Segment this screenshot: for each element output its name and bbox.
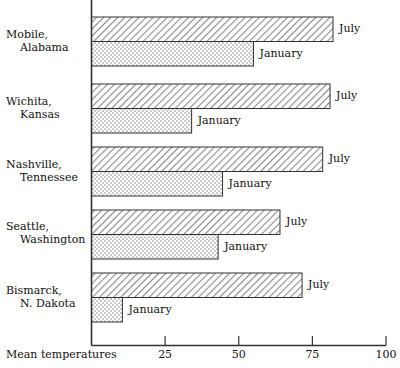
- series-label-nashville-january: January: [229, 177, 272, 190]
- bar-seattle-january: [92, 235, 219, 260]
- bar-bismarck-january: [92, 298, 123, 323]
- x-tick-label-50: 50: [219, 348, 259, 361]
- x-axis-ticks: [165, 336, 386, 346]
- series-label-bismarck-july: July: [308, 278, 329, 291]
- category-label-mobile: Mobile, Alabama: [6, 28, 69, 54]
- chart-canvas: [0, 0, 400, 368]
- category-label-line2: N. Dakota: [6, 297, 76, 310]
- bar-mobile-january: [92, 42, 254, 67]
- series-label-wichita-january: January: [198, 114, 241, 127]
- category-label-line1: Seattle,: [6, 220, 49, 233]
- x-tick-label-100: 100: [366, 348, 400, 361]
- series-label-wichita-july: July: [336, 89, 357, 102]
- x-tick-label-75: 75: [292, 348, 332, 361]
- category-label-line1: Mobile,: [6, 28, 48, 41]
- series-label-seattle-january: January: [224, 240, 267, 253]
- series-label-mobile-july: July: [339, 22, 360, 35]
- bar-seattle-july: [92, 210, 280, 235]
- category-label-nashville: Nashville, Tennessee: [6, 158, 78, 184]
- bars-layer: [92, 17, 333, 322]
- category-label-line1: Nashville,: [6, 158, 62, 171]
- category-label-seattle: Seattle, Washington: [6, 220, 85, 246]
- category-label-line2: Washington: [6, 233, 85, 246]
- bar-wichita-july: [92, 84, 331, 109]
- bar-nashville-july: [92, 147, 323, 172]
- bar-wichita-january: [92, 109, 192, 134]
- category-label-wichita: Wichita, Kansas: [6, 95, 60, 121]
- series-label-mobile-january: January: [259, 47, 302, 60]
- bar-mobile-july: [92, 17, 333, 42]
- x-axis-title: Mean temperatures: [6, 348, 117, 361]
- category-label-line1: Wichita,: [6, 95, 52, 108]
- category-label-line2: Alabama: [6, 41, 69, 54]
- series-label-nashville-july: July: [329, 152, 350, 165]
- category-label-line2: Tennessee: [6, 171, 78, 184]
- category-label-line1: Bismarck,: [6, 284, 62, 297]
- x-tick-label-25: 25: [145, 348, 185, 361]
- category-label-bismarck: Bismarck, N. Dakota: [6, 284, 76, 310]
- bar-nashville-january: [92, 172, 223, 197]
- bar-bismarck-july: [92, 273, 303, 298]
- category-label-line2: Kansas: [6, 108, 60, 121]
- bar-chart: Mobile, Alabama Wichita, Kansas Nashvill…: [0, 0, 400, 368]
- series-label-seattle-july: July: [286, 215, 307, 228]
- series-label-bismarck-january: January: [128, 303, 171, 316]
